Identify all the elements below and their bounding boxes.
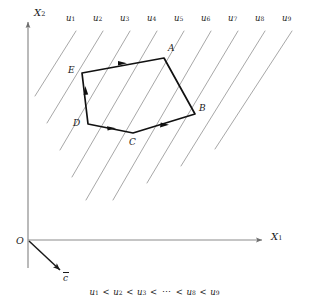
contour-line-u5 — [86, 31, 184, 200]
origin-label: O — [16, 236, 24, 246]
vertex-label-c: C — [129, 138, 136, 147]
vertex-label-e: E — [68, 66, 75, 75]
feasible-region-polygon — [82, 58, 195, 133]
contour-label-u2: u2 — [93, 14, 102, 23]
contour-label-u6: u6 — [201, 14, 210, 23]
contour-line-u8 — [181, 31, 265, 166]
diagram-svg — [0, 0, 309, 308]
contour-label-u5: u5 — [174, 14, 183, 23]
contour-label-u3: u3 — [120, 14, 129, 23]
vertex-label-a: A — [168, 44, 175, 53]
overbar-glyph — [63, 272, 69, 273]
contour-label-u9: u9 — [282, 14, 291, 23]
contour-label-u1: u1 — [66, 14, 75, 23]
figure-canvas: u1 u2 u3 u4 u5 u6 u7 u8 u9 A B C D E X1 … — [0, 0, 309, 308]
contour-line-u4 — [72, 31, 157, 177]
vertex-label-b: B — [199, 104, 206, 113]
vertex-label-d: D — [73, 119, 80, 128]
contour-line-group — [35, 31, 292, 200]
y-axis-label: X2 — [34, 8, 45, 18]
caption-inequality-chain: u1 < u2 < u3 < ⋯ < u8 < u9 — [0, 287, 309, 297]
contour-line-u7 — [147, 31, 238, 183]
contour-label-u4: u4 — [147, 14, 156, 23]
gradient-vector-label: c — [63, 274, 68, 283]
contour-label-u8: u8 — [255, 14, 264, 23]
contour-label-u7: u7 — [228, 14, 237, 23]
edge-arrow-group — [84, 61, 169, 130]
contour-line-u3 — [60, 31, 130, 150]
contour-line-u6 — [113, 31, 211, 200]
gradient-vector-c — [29, 241, 60, 270]
contour-line-u2 — [47, 31, 103, 123]
x-axis-label: X1 — [271, 232, 282, 242]
